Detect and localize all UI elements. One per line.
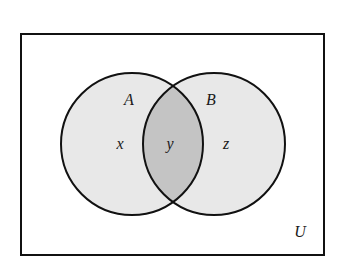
- set-a-label: A: [123, 91, 134, 108]
- region-y-label: y: [164, 135, 174, 153]
- universe-label: U: [294, 223, 307, 240]
- region-z-label: z: [222, 135, 230, 152]
- region-x-label: x: [115, 135, 123, 152]
- set-b-label: B: [206, 91, 216, 108]
- venn-diagram: A B x y z U: [0, 0, 342, 257]
